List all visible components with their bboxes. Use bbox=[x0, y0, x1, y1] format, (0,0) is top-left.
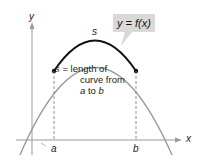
arc-label: s bbox=[92, 27, 97, 37]
origin-tick bbox=[41, 143, 46, 146]
arc-length-description: s = length of curve from a to b bbox=[55, 63, 125, 96]
y-axis-label: y bbox=[29, 12, 34, 22]
y-axis-arrow-icon bbox=[30, 22, 35, 29]
point-b-label: b bbox=[133, 144, 139, 154]
x-axis-arrow-icon bbox=[175, 138, 182, 143]
point-a-label: a bbox=[51, 144, 57, 154]
callout-pointer bbox=[121, 31, 133, 46]
description-line-2: curve from bbox=[55, 74, 125, 85]
function-callout: y = f(x) bbox=[113, 14, 155, 32]
x-axis-label: x bbox=[186, 134, 191, 144]
description-line-3: a to b bbox=[55, 85, 125, 96]
description-line-1: s = length of bbox=[55, 63, 125, 74]
